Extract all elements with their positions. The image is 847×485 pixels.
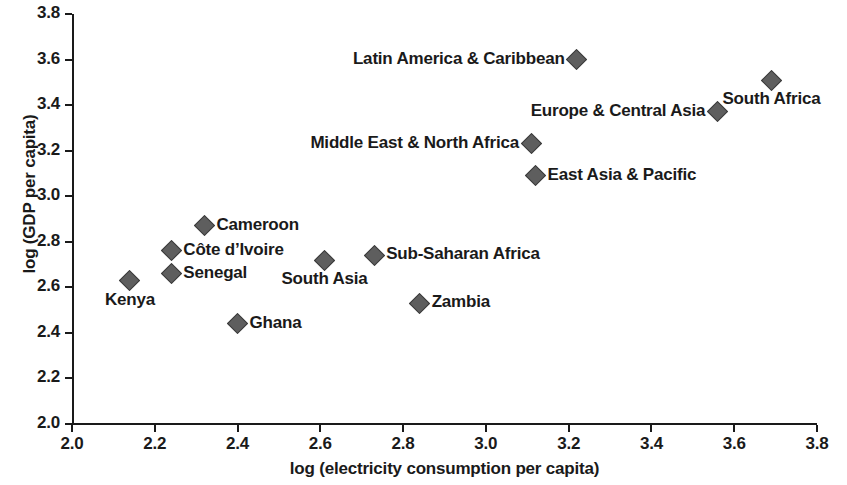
y-axis-title: log (GDP per capita) [20,74,40,314]
data-point-marker[interactable] [194,215,215,236]
data-point-marker[interactable] [525,165,546,186]
data-point-marker[interactable] [761,69,782,90]
x-tick-label: 3.6 [709,434,759,454]
x-tick-label: 2.0 [47,434,97,454]
y-tick-mark [65,13,72,15]
y-tick-mark [65,195,72,197]
data-point-label: Côte d’Ivoire [183,240,283,260]
data-point-label: Middle East & North Africa [310,133,519,153]
x-tick-mark [154,425,156,432]
data-point-label: Europe & Central Asia [531,101,706,121]
data-point-label: East Asia & Pacific [548,165,697,185]
y-tick-mark [65,332,72,334]
y-tick-label: 3.8 [14,3,60,23]
x-tick-mark [71,425,73,432]
x-tick-mark [816,425,818,432]
scatter-plot-figure: 2.02.22.42.62.83.03.23.43.63.8 2.02.22.4… [0,0,847,485]
data-point-label: Ghana [250,313,302,333]
x-tick-mark [733,425,735,432]
x-tick-label: 3.0 [461,434,511,454]
data-point-marker[interactable] [364,245,385,266]
data-point-marker[interactable] [119,270,140,291]
y-tick-label: 2.2 [14,367,60,387]
data-point-label: South Africa [722,89,820,109]
y-tick-mark [65,241,72,243]
data-point-marker[interactable] [409,293,430,314]
x-tick-label: 2.8 [378,434,428,454]
x-axis-title: log (electricity consumption per capita) [72,459,817,479]
data-point-label: Sub-Saharan Africa [386,244,540,264]
data-point-marker[interactable] [161,263,182,284]
x-tick-mark [402,425,404,432]
x-tick-mark [237,425,239,432]
y-tick-label: 3.6 [14,49,60,69]
y-tick-mark [65,59,72,61]
y-tick-mark [65,286,72,288]
data-point-label: Latin America & Caribbean [353,49,565,69]
x-tick-label: 2.6 [295,434,345,454]
x-tick-mark [319,425,321,432]
data-point-label: Kenya [105,290,155,310]
x-tick-mark [485,425,487,432]
y-tick-mark [65,104,72,106]
data-point-label: South Asia [281,269,367,289]
data-point-marker[interactable] [566,49,587,70]
x-tick-label: 2.2 [130,434,180,454]
y-tick-label: 2.0 [14,413,60,433]
x-tick-label: 3.8 [792,434,842,454]
data-point-label: Senegal [183,263,247,283]
x-axis-line [72,423,817,425]
y-axis-line [72,14,74,425]
x-tick-label: 3.2 [544,434,594,454]
x-tick-label: 2.4 [213,434,263,454]
y-tick-mark [65,377,72,379]
data-point-marker[interactable] [161,240,182,261]
x-tick-label: 3.4 [626,434,676,454]
data-point-label: Zambia [432,292,490,312]
data-point-marker[interactable] [227,313,248,334]
x-tick-mark [568,425,570,432]
y-tick-label: 2.4 [14,322,60,342]
data-point-label: Cameroon [216,215,298,235]
y-tick-mark [65,150,72,152]
x-tick-mark [650,425,652,432]
data-point-marker[interactable] [521,133,542,154]
data-point-marker[interactable] [314,249,335,270]
